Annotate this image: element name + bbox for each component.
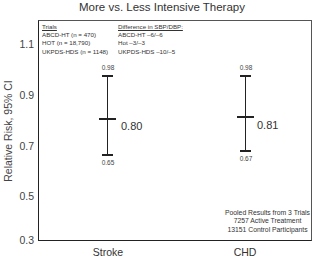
trials-heading: Trials — [42, 23, 108, 31]
stroke-ci-lower-label: 0.65 — [102, 159, 115, 166]
y-tick: 0.7 — [6, 140, 34, 152]
pooled-results-note: Pooled Results from 3 Trials 7257 Active… — [225, 209, 310, 234]
trial-item: ABCD-HT (n = 470) — [42, 31, 108, 39]
bp-difference-item: UKPDS-HDS –10/–5 — [118, 48, 183, 56]
chd-ci-lower-label: 0.67 — [240, 155, 253, 162]
stroke-lower-cap — [102, 154, 113, 156]
trials-legend: Trials ABCD-HT (n = 470) HOT (n = 18,790… — [42, 23, 108, 56]
stroke-ci-line — [107, 75, 109, 155]
stroke-ci-upper-label: 0.98 — [102, 64, 115, 71]
y-tick: 0.3 — [6, 234, 34, 246]
x-category-stroke: Stroke — [93, 246, 123, 258]
pooled-line: 7257 Active Treatment — [225, 217, 310, 225]
chart-title: More vs. Less Intensive Therapy — [0, 1, 324, 13]
bp-difference-item: ABCD-HT –6/–6 — [118, 31, 183, 39]
chd-point-label: 0.81 — [257, 119, 278, 131]
y-tick: 0.9 — [6, 89, 34, 101]
chd-lower-cap — [240, 150, 251, 152]
trial-item: HOT (n = 18,790) — [42, 39, 108, 47]
x-category-chd: CHD — [234, 246, 257, 258]
bp-difference-item: Hot –3/–3 — [118, 39, 183, 47]
y-tick: 0.5 — [6, 190, 34, 202]
pooled-line: Pooled Results from 3 Trials — [225, 209, 310, 217]
stroke-point-marker — [99, 118, 116, 120]
trial-item: UKPDS-HDS (n = 1148) — [42, 48, 108, 56]
bp-difference-legend: Difference in SBP/DBP: ABCD-HT –6/–6 Hot… — [118, 23, 183, 56]
y-tick: 1.1 — [6, 38, 34, 50]
chd-ci-upper-label: 0.98 — [240, 64, 253, 71]
stroke-point-label: 0.80 — [121, 120, 142, 132]
chd-ci-line — [245, 75, 247, 151]
pooled-line: 13151 Control Participants — [225, 226, 310, 234]
bp-difference-heading: Difference in SBP/DBP: — [118, 23, 183, 31]
chd-point-marker — [237, 116, 254, 118]
